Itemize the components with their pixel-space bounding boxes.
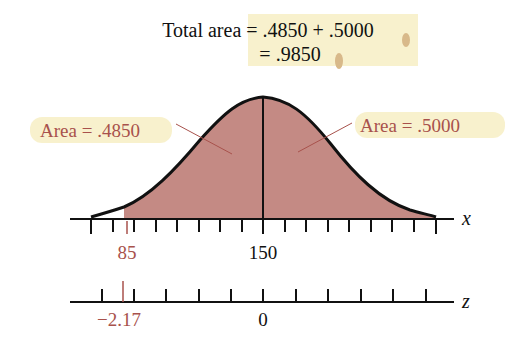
x-label-150: 150 xyxy=(249,242,278,263)
smudge xyxy=(335,53,343,69)
x-axis-ticks xyxy=(91,219,436,234)
z-label-0: 0 xyxy=(258,309,268,330)
left-area-label: Area = .4850 xyxy=(40,120,140,141)
z-axis-ticks xyxy=(102,289,426,302)
z-axis-name: z xyxy=(461,290,470,312)
z-label-neg217: −2.17 xyxy=(97,309,141,330)
right-area-label: Area = .5000 xyxy=(360,115,460,136)
normal-curve-diagram: Total area = .4850 + .5000 = .9850 Area … xyxy=(0,0,518,349)
title-line-2: = .9850 xyxy=(259,43,320,65)
x-label-85: 85 xyxy=(118,242,137,263)
title-line-1: Total area = .4850 + .5000 xyxy=(162,19,374,41)
x-axis-name: x xyxy=(461,207,471,229)
smudge xyxy=(402,33,410,47)
